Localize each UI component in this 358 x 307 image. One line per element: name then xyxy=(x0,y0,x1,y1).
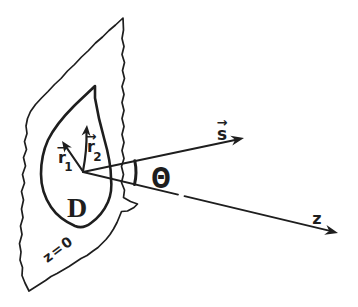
angle-theta-arc xyxy=(135,161,136,185)
r2-subscript: 2 xyxy=(93,150,101,164)
s-axis-arrowhead-icon xyxy=(230,133,245,145)
r1-subscript: 1 xyxy=(64,160,72,174)
plane-z0-outline xyxy=(20,18,138,291)
z-axis-line-segment xyxy=(185,196,331,231)
vector-diagram: D Θ → s z → r 1 → r 2 z=0 xyxy=(0,0,358,307)
theta-label: Θ xyxy=(151,162,171,195)
plane-equation-label: z=0 xyxy=(40,232,77,265)
s-axis-label: s xyxy=(217,124,227,144)
region-d-label: D xyxy=(67,192,87,223)
figure-canvas: D Θ → s z → r 1 → r 2 z=0 xyxy=(0,0,358,307)
z-axis-arrowhead-icon xyxy=(324,225,339,238)
z-axis-label: z xyxy=(312,209,321,228)
